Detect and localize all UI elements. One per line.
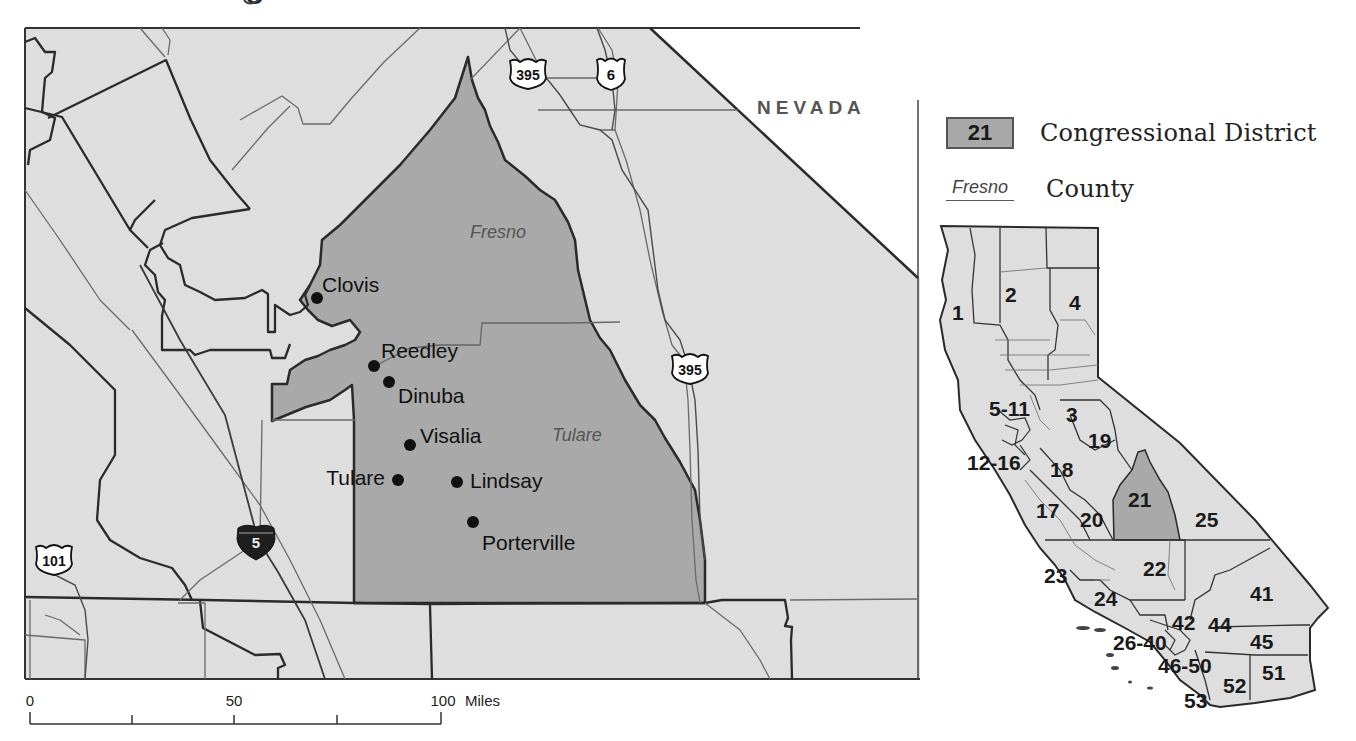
city-label: Reedley — [381, 339, 459, 362]
city-label: Dinuba — [398, 384, 465, 407]
us-highway-shield-icon: 101 — [36, 545, 72, 575]
city-dot-icon — [392, 474, 404, 486]
inset-map-california: 1 2 4 5-11 3 19 12-16 18 21 17 20 25 22 … — [940, 226, 1328, 712]
district-label: 20 — [1080, 508, 1103, 531]
city-dot-icon — [404, 439, 416, 451]
district-label: 45 — [1250, 630, 1274, 653]
city-label: Tulare — [326, 466, 385, 489]
city-label: Visalia — [420, 424, 482, 447]
district-label: 5-11 — [989, 397, 1030, 420]
district-label: 52 — [1223, 674, 1246, 697]
city-label: Lindsay — [470, 469, 543, 492]
main-map: NEVADA Fresno Tulare Clovis Reedley Dinu… — [25, 28, 920, 679]
district-label: 26-40 — [1113, 631, 1167, 654]
state-label-nevada: NEVADA — [757, 97, 866, 118]
district-label: 18 — [1050, 458, 1074, 481]
svg-text:5: 5 — [252, 534, 260, 551]
city-label: Porterville — [482, 531, 575, 554]
county-label-fresno: Fresno — [470, 222, 526, 242]
city-dot-icon — [451, 476, 463, 488]
us-highway-shield-icon: 395 — [672, 354, 708, 384]
legend-row-district: 21 Congressional District — [946, 117, 1317, 149]
legend-district-label: Congressional District — [1040, 119, 1317, 147]
district-label: 12-16 — [967, 451, 1021, 474]
district-label: 51 — [1262, 661, 1286, 684]
map-figure: g — [0, 0, 1356, 741]
svg-text:395: 395 — [516, 67, 540, 83]
district-label: 23 — [1044, 564, 1067, 587]
scale-tick-50: 50 — [226, 692, 243, 709]
svg-text:6: 6 — [607, 66, 615, 83]
legend-county-label: County — [1046, 175, 1134, 203]
district-label: 24 — [1094, 587, 1118, 610]
district-label: 4 — [1069, 291, 1081, 314]
city-label: Clovis — [322, 273, 379, 296]
district-swatch: 21 — [946, 117, 1014, 149]
county-sample: Fresno — [946, 177, 1014, 201]
scale-unit: Miles — [465, 692, 500, 709]
svg-text:101: 101 — [42, 553, 66, 569]
district-label: 3 — [1066, 403, 1078, 426]
county-label-tulare: Tulare — [552, 425, 602, 445]
city-dot-icon — [368, 360, 380, 372]
scale-tick-0: 0 — [26, 692, 34, 709]
district-label: 25 — [1195, 508, 1219, 531]
district-label: 41 — [1250, 582, 1274, 605]
district-label: 46-50 — [1158, 654, 1212, 677]
svg-text:395: 395 — [678, 362, 702, 378]
city-dot-icon — [383, 376, 395, 388]
district-label: 44 — [1208, 613, 1232, 636]
district-label: 53 — [1184, 689, 1207, 712]
us-highway-shield-icon: 395 — [510, 59, 546, 89]
district-label: 1 — [952, 301, 964, 324]
district-label: 22 — [1143, 557, 1166, 580]
district-label: 42 — [1172, 611, 1195, 634]
district-label: 17 — [1036, 499, 1059, 522]
us-highway-shield-icon: 6 — [597, 59, 625, 91]
scale-tick-100: 100 — [430, 692, 455, 709]
district-label: 2 — [1005, 283, 1017, 306]
city-dot-icon — [467, 516, 479, 528]
scale-bar: 0 50 100 Miles — [26, 692, 500, 724]
district-label: 19 — [1088, 429, 1111, 452]
district-label: 21 — [1128, 488, 1152, 511]
legend-row-county: Fresno County — [946, 175, 1134, 203]
